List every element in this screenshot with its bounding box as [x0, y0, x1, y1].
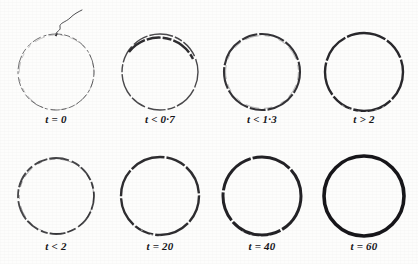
panel-3: t < 1·3: [210, 0, 314, 132]
panel-2-time-label: t < 0·7: [108, 113, 212, 125]
ring-circle-3-inner: [226, 36, 299, 109]
panel-5-time-label: t < 2: [4, 240, 108, 252]
panel-6: t = 20: [108, 132, 212, 264]
ring-svg-5: [4, 132, 108, 244]
panel-2: t < 0·7: [108, 0, 212, 132]
ring-svg-8: [312, 132, 416, 244]
panel-7: t = 40: [210, 132, 314, 264]
panel-3-time-label: t < 1·3: [210, 113, 314, 125]
ring-circle-7: [223, 157, 301, 235]
ring-container-2: [108, 0, 212, 112]
panel-8-time-label: t = 60: [312, 240, 416, 252]
panel-5: t < 2: [4, 132, 108, 264]
ring-svg-3: [210, 0, 314, 112]
panel-1-time-label: t = 0: [4, 113, 108, 125]
ring-circle-4: [325, 33, 403, 111]
ring-container-8: [312, 132, 416, 244]
figure-plate: t = 0 t < 0·7 t < 1·3: [0, 0, 418, 264]
nucleation-filament-icon: [56, 10, 82, 34]
ring-svg-1: [4, 0, 108, 112]
panel-6-time-label: t = 20: [108, 240, 212, 252]
ring-container-5: [4, 132, 108, 244]
ring-circle-5: [18, 158, 94, 234]
ring-circle-2: [122, 34, 198, 110]
panel-4: t > 2: [312, 0, 416, 132]
ring-svg-2: [108, 0, 212, 112]
panel-7-time-label: t = 40: [210, 240, 314, 252]
ring-svg-4: [312, 0, 416, 112]
ring-container-6: [108, 132, 212, 244]
panel-4-time-label: t > 2: [312, 113, 416, 125]
ring-container-3: [210, 0, 314, 112]
panel-row-top: t = 0 t < 0·7 t < 1·3: [0, 0, 418, 132]
ring-container-1: [4, 0, 108, 112]
ring-svg-6: [108, 132, 212, 244]
panel-8: t = 60: [312, 132, 416, 264]
panel-1: t = 0: [4, 0, 108, 132]
ring-container-7: [210, 132, 314, 244]
panel-row-bottom: t < 2 t = 20 t = 40: [0, 132, 418, 264]
ring-svg-7: [210, 132, 314, 244]
ring-circle-8: [324, 156, 404, 236]
ring-container-4: [312, 0, 416, 112]
ring-circle-6: [121, 157, 199, 235]
ring-circle-3: [224, 34, 300, 110]
